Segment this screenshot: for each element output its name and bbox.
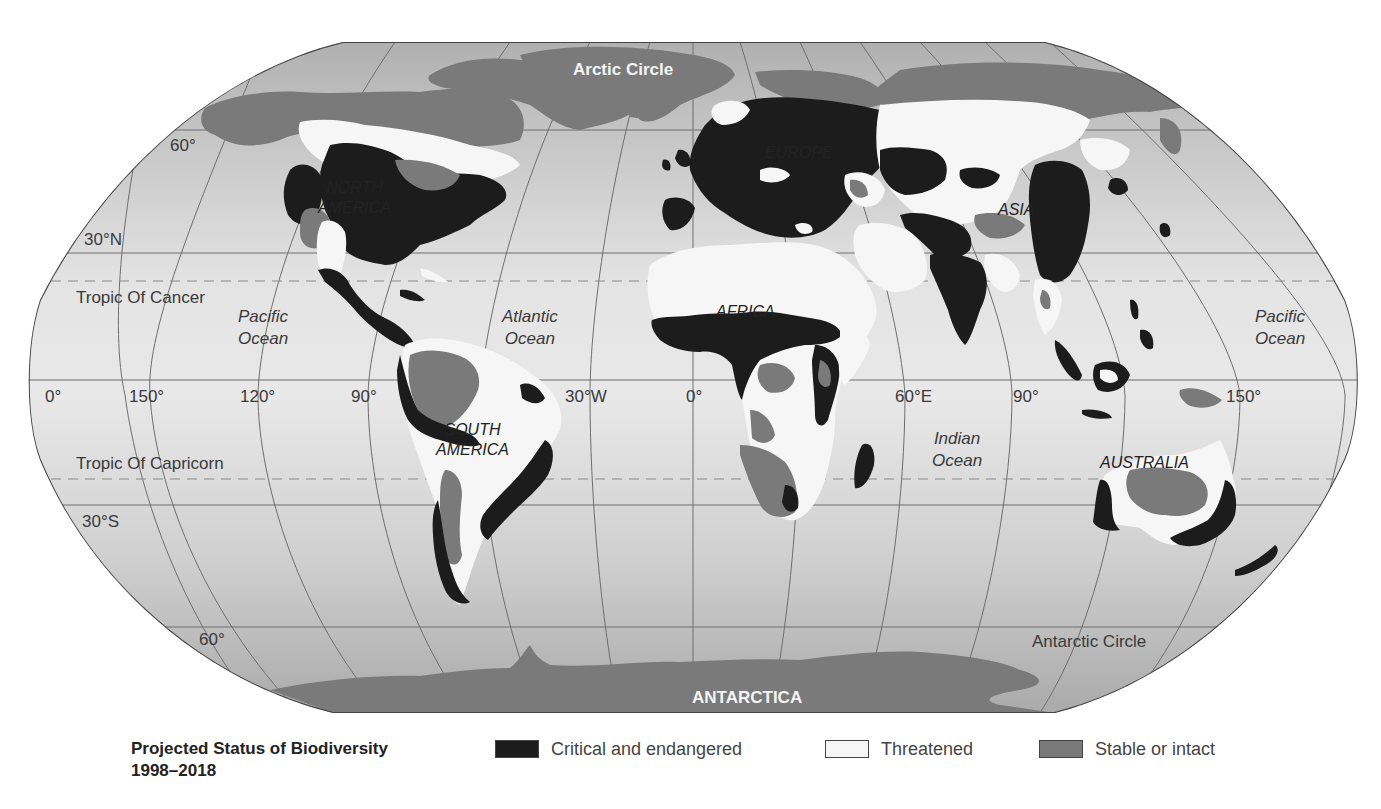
critical-swatch (495, 740, 539, 758)
legend-item-critical: Critical and endangered (495, 738, 742, 760)
australia-label: AUSTRALIA (1100, 453, 1189, 473)
lon-90w-label: 90° (351, 387, 377, 407)
africa-label: AFRICA (716, 302, 775, 322)
arctic-circle-label: Arctic Circle (573, 60, 673, 80)
lat-30n-label: 30°N (84, 230, 122, 250)
asia-label: ASIA (998, 200, 1034, 220)
south-america-label: SOUTH AMERICA (436, 420, 509, 460)
lon-30w-label: 30°W (565, 387, 607, 407)
pacific-ocean-right-label: Pacific Ocean (1255, 306, 1305, 350)
legend-label: Threatened (881, 739, 973, 760)
legend-title: Projected Status of Biodiversity 1998–20… (131, 738, 388, 782)
lon-120w-label: 120° (240, 387, 275, 407)
lat-60s-label: 60° (199, 630, 225, 650)
world-map (0, 0, 1381, 720)
lat-30s-label: 30°S (82, 512, 119, 532)
continent-name-line1: NORTH (318, 178, 391, 198)
legend-label: Stable or intact (1095, 739, 1215, 760)
continent-name-line2: AMERICA (318, 198, 391, 218)
ocean-name-line1: Pacific (238, 306, 288, 328)
lon-150w-label: 150° (129, 387, 164, 407)
tropic-of-cancer-label: Tropic Of Cancer (76, 288, 205, 308)
ocean-name-line2: Ocean (1255, 328, 1305, 350)
continent-name-line2: AMERICA (436, 440, 509, 460)
legend-label: Critical and endangered (551, 739, 742, 760)
legend-years: 1998–2018 (131, 760, 388, 782)
legend-title-text: Projected Status of Biodiversity (131, 738, 388, 760)
ocean-name-line2: Ocean (502, 328, 558, 350)
antarctica-label: ANTARCTICA (692, 688, 802, 708)
continent-name-line1: SOUTH (436, 420, 509, 440)
lon-60e-label: 60°E (895, 387, 932, 407)
lon-0-label: 0° (686, 387, 702, 407)
ocean-name-line1: Pacific (1255, 306, 1305, 328)
lon-0-left-label: 0° (45, 387, 61, 407)
ocean-name-line2: Ocean (238, 328, 288, 350)
legend: Projected Status of Biodiversity 1998–20… (0, 738, 1381, 798)
lon-90e-label: 90° (1013, 387, 1039, 407)
ocean-name-line1: Atlantic (502, 306, 558, 328)
ocean-name-line2: Ocean (932, 450, 982, 472)
pacific-ocean-left-label: Pacific Ocean (238, 306, 288, 350)
europe-label: EUROPE (765, 143, 833, 163)
antarctic-circle-label: Antarctic Circle (1032, 632, 1146, 652)
north-america-label: NORTH AMERICA (318, 178, 391, 218)
lat-60n-label: 60° (170, 136, 196, 156)
threatened-swatch (825, 740, 869, 758)
ocean-name-line1: Indian (932, 428, 982, 450)
lon-150e-label: 150° (1226, 387, 1261, 407)
atlantic-ocean-label: Atlantic Ocean (502, 306, 558, 350)
indian-ocean-label: Indian Ocean (932, 428, 982, 472)
legend-item-stable: Stable or intact (1039, 738, 1215, 760)
stable-swatch (1039, 740, 1083, 758)
tropic-of-capricorn-label: Tropic Of Capricorn (76, 454, 224, 474)
legend-item-threatened: Threatened (825, 738, 973, 760)
